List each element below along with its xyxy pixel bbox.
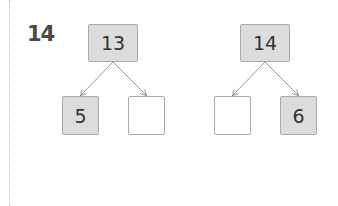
arrow-left-2	[233, 62, 265, 95]
bond-1-part-right-answer-box[interactable]	[128, 96, 165, 135]
arrow-right-2	[265, 62, 298, 95]
arrow-left-1	[81, 62, 113, 95]
bond-2-part-left-answer-box[interactable]	[214, 96, 251, 135]
bond-2-part-right-box: 6	[280, 96, 317, 135]
arrow-right-1	[113, 62, 146, 95]
bond-1-whole-box: 13	[88, 24, 138, 62]
bond-1-part-left-box: 5	[62, 96, 99, 135]
bond-2-whole-box: 14	[240, 24, 290, 62]
